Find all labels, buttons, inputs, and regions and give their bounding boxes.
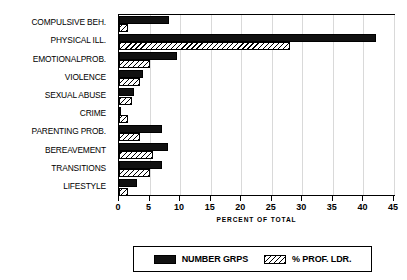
x-axis-title: PERCENT OF TOTAL — [118, 216, 395, 223]
legend-label-prof-ldr: % PROF. LDR. — [292, 254, 351, 264]
x-tick-35 — [332, 196, 333, 201]
category-label: PARENTING PROB. — [0, 127, 106, 136]
x-tick-0 — [118, 196, 119, 201]
x-tick-10 — [179, 196, 180, 201]
bar-prof-ldr — [119, 133, 140, 141]
x-tick-label-30: 30 — [296, 202, 306, 212]
x-tick-label-20: 20 — [235, 202, 245, 212]
x-tick-label-15: 15 — [205, 202, 215, 212]
bar-prof-ldr — [119, 115, 128, 123]
category-label: TRANSITIONS — [0, 164, 106, 173]
bar-prof-ldr — [119, 60, 150, 68]
x-tick-label-40: 40 — [357, 202, 367, 212]
x-tick-30 — [301, 196, 302, 201]
bar-number-grps — [119, 125, 162, 133]
x-axis-tick-labels: 051015202530354045 — [0, 202, 407, 214]
bar-prof-ldr — [119, 188, 128, 196]
category-label: VIOLENCE — [0, 73, 106, 82]
category-label: LIFESTYLE — [0, 182, 106, 191]
bar-prof-ldr — [119, 97, 132, 105]
bar-number-grps — [119, 143, 168, 151]
x-tick-label-25: 25 — [266, 202, 276, 212]
x-tick-40 — [362, 196, 363, 201]
legend-label-number-grps: NUMBER GRPS — [182, 254, 248, 264]
bar-prof-ldr — [119, 169, 150, 177]
legend-item-prof-ldr: % PROF. LDR. — [264, 254, 351, 264]
bar-prof-ldr — [119, 78, 140, 86]
x-tick-20 — [240, 196, 241, 201]
chart-legend: NUMBER GRPS % PROF. LDR. — [133, 246, 372, 272]
x-tick-label-10: 10 — [174, 202, 184, 212]
bar-number-grps — [119, 161, 162, 169]
category-label: COMPULSIVE BEH. — [0, 18, 106, 27]
bar-number-grps — [119, 70, 143, 78]
category-axis-labels: COMPULSIVE BEH.PHYSICAL ILL.EMOTIONALPRO… — [0, 14, 110, 196]
category-label: SEXUAL ABUSE — [0, 91, 106, 100]
bar-number-grps — [119, 52, 177, 60]
x-tick-label-0: 0 — [115, 202, 120, 212]
x-tick-label-35: 35 — [327, 202, 337, 212]
category-label: CRIME — [0, 109, 106, 118]
x-tick-15 — [210, 196, 211, 201]
category-label: EMOTIONALPROB. — [0, 55, 106, 64]
bar-number-grps — [119, 16, 169, 24]
bar-number-grps — [119, 88, 134, 96]
category-label: PHYSICAL ILL. — [0, 36, 106, 45]
bar-number-grps — [119, 34, 376, 42]
bar-prof-ldr — [119, 151, 153, 159]
bars-layer — [119, 15, 394, 195]
bar-chart: COMPULSIVE BEH.PHYSICAL ILL.EMOTIONALPRO… — [0, 0, 407, 280]
legend-item-number-grps: NUMBER GRPS — [154, 254, 248, 264]
x-tick-45 — [393, 196, 394, 201]
x-tick-label-45: 45 — [388, 202, 398, 212]
solid-black-swatch — [154, 255, 176, 264]
bar-number-grps — [119, 179, 137, 187]
bar-prof-ldr — [119, 24, 128, 32]
gridline-45 — [394, 15, 395, 195]
x-tick-label-5: 5 — [146, 202, 151, 212]
plot-area — [118, 14, 395, 196]
x-tick-5 — [149, 196, 150, 201]
x-tick-25 — [271, 196, 272, 201]
diagonal-hatch-swatch — [264, 255, 286, 264]
bar-number-grps — [119, 107, 121, 115]
bar-prof-ldr — [119, 42, 290, 50]
category-label: BEREAVEMENT — [0, 146, 106, 155]
